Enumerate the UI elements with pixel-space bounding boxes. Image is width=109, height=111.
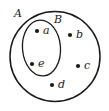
- set-label-a: A: [13, 7, 22, 20]
- point-label-a: a: [43, 24, 50, 37]
- set-label-b: B: [53, 13, 62, 26]
- point-dot-c: [76, 64, 80, 68]
- euler-diagram-canvas: A B a b c d e: [0, 0, 109, 111]
- point-label-e: e: [38, 57, 45, 70]
- point-label-d: d: [58, 78, 65, 91]
- euler-diagram: A B a b c d e: [0, 0, 109, 111]
- point-label-b: b: [76, 28, 83, 41]
- point-dot-d: [50, 83, 54, 87]
- point-dot-b: [68, 33, 72, 37]
- point-dot-e: [30, 62, 34, 66]
- point-dot-a: [35, 29, 39, 33]
- point-label-c: c: [84, 59, 90, 72]
